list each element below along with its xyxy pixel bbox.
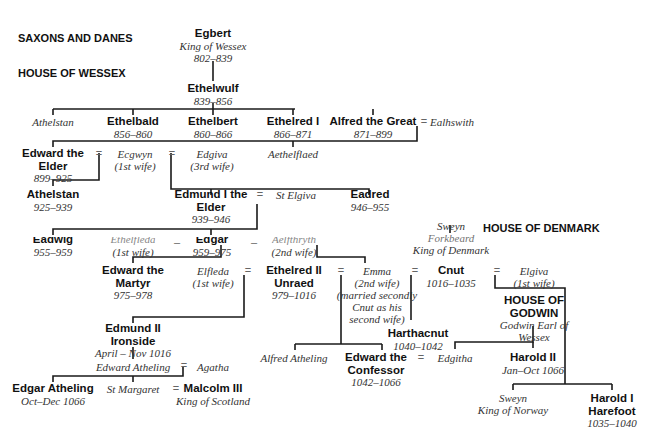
- person-edward-the-confessor: Edward the Confessor 1042–1066: [345, 351, 407, 388]
- heading-house-of-wessex: HOUSE OF WESSEX: [18, 67, 126, 79]
- family-tree: SAXONS AND DANES HOUSE OF WESSEX HOUSE O…: [0, 0, 663, 435]
- person-elgiva: Elgiva (1st wife): [513, 265, 554, 289]
- person-malcolm-iii: Malcolm III King of Scotland: [176, 382, 250, 407]
- person-ethelfleda: Ethelfleda (1st wife): [110, 237, 155, 258]
- person-edmund-i-the-elder: Edmund I the Elder 939–946: [175, 188, 248, 225]
- person-agatha: Agatha: [197, 361, 229, 373]
- person-elfleda: Elfleda (1st wife): [192, 265, 233, 289]
- marriage-symbol: =: [245, 264, 251, 276]
- person-athelstan: Athelstan 925–939: [27, 188, 79, 213]
- person-ealhswith: Ealhswith: [430, 116, 474, 128]
- person-aethelflaed: Aethelflaed: [268, 148, 318, 160]
- person-cnut: Cnut 1016–1035: [426, 264, 476, 289]
- marriage-symbol: =: [169, 147, 175, 159]
- person-ethelwulf: Ethelwulf 839–856: [187, 82, 238, 107]
- person-eadred: Eadred 946–955: [351, 188, 390, 213]
- marriage-symbol: –: [251, 236, 257, 248]
- marriage-symbol: =: [494, 264, 500, 276]
- person-edmund-ii-ironside: Edmund II Ironside April – Nov 1016: [95, 322, 171, 359]
- person-harthacnut: Harthacnut 1040–1042: [388, 327, 449, 352]
- person-athelstan-son-of-ethelwulf: Athelstan: [32, 116, 74, 128]
- person-st-margaret: St Margaret: [107, 383, 160, 395]
- person-harold-ii: Harold II Jan–Oct 1066: [502, 351, 564, 376]
- marriage-symbol: =: [412, 264, 418, 276]
- person-ethelbert: Ethelbert 860–866: [188, 115, 238, 140]
- person-sweyn-forkbeard: Sweyn Forkbeard King of Denmark: [413, 220, 489, 256]
- person-edgitha: Edgitha: [438, 352, 473, 364]
- person-ecgwyn: Ecgwyn (1st wife): [114, 148, 155, 172]
- person-harold-i-harefoot: Harold I Harefoot 1035–1040: [587, 392, 637, 429]
- marriage-symbol: –: [174, 236, 180, 248]
- person-eadwig: Eadwig 955–959: [33, 237, 73, 258]
- marriage-symbol: =: [181, 359, 187, 371]
- marriage-symbol: =: [418, 351, 424, 363]
- house-of-godwin: HOUSE OF GODWIN Godwin Earl of Wessex: [500, 294, 568, 343]
- person-emma: Emma (2nd wife) (married secondly Cnut a…: [337, 265, 417, 325]
- person-ethelred-ii-unraed: Ethelred II Unraed 979–1016: [266, 264, 322, 301]
- person-alfred-the-great: Alfred the Great 871–899: [330, 115, 417, 140]
- marriage-symbol: =: [257, 188, 263, 200]
- person-edward-atheling: Edward Atheling: [96, 361, 170, 373]
- person-sweyn-king-of-norway: Sweyn King of Norway: [478, 392, 548, 416]
- heading-saxons-and-danes: SAXONS AND DANES: [18, 32, 133, 44]
- person-ethelred-i: Ethelred I 866–871: [267, 115, 319, 140]
- marriage-symbol: =: [421, 115, 427, 127]
- person-edward-the-martyr: Edward the Martyr 975–978: [102, 264, 164, 301]
- person-edgar: Edgar 959–975: [193, 237, 232, 258]
- person-edgar-atheling: Edgar Atheling Oct–Dec 1066: [12, 382, 93, 407]
- heading-house-of-denmark: HOUSE OF DENMARK: [483, 222, 600, 234]
- person-ethelbald: Ethelbald 856–860: [107, 115, 159, 140]
- person-edgiva: Edgiva (3rd wife): [190, 148, 233, 172]
- person-edward-the-elder: Edward the Elder 899–925: [22, 147, 84, 184]
- person-aelfthryth: Aelfthryth (2nd wife): [272, 237, 317, 258]
- person-st-elgiva: St Elgiva: [276, 189, 316, 201]
- marriage-symbol: =: [96, 147, 102, 159]
- person-egbert: Egbert King of Wessex 802–839: [180, 27, 247, 64]
- person-alfred-atheling: Alfred Atheling: [261, 352, 328, 364]
